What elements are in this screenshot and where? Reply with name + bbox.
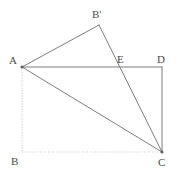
- segment-AB-prime: [22, 25, 99, 67]
- solid-segments-group: [22, 25, 162, 152]
- point-label-b-prime: B': [92, 9, 101, 20]
- point-label-D: D: [157, 54, 165, 65]
- point-label-A: A: [9, 55, 17, 66]
- point-label-C: C: [158, 157, 165, 168]
- point-label-B: B: [11, 156, 18, 167]
- figure-canvas: [0, 0, 182, 176]
- point-label-E: E: [117, 54, 124, 65]
- vertex-dot-a: [21, 66, 24, 69]
- vertex-dot-c: [161, 151, 164, 154]
- geometry-figure: A B C D E B': [0, 0, 182, 176]
